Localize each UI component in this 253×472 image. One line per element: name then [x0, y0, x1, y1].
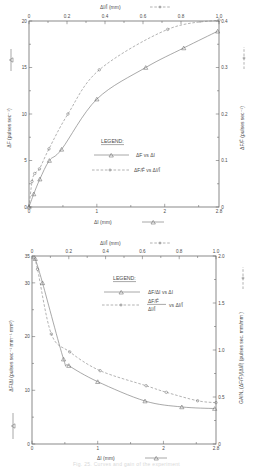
- left-axis-label: ΔF (pulses sec⁻¹): [6, 108, 12, 148]
- data-point-dot: [48, 148, 51, 151]
- data-point-dot: [33, 172, 36, 175]
- axis-tick-label-right: 1.5: [218, 301, 225, 306]
- legend-item-label: ΔF/F̄ vs ΔI/Ī: [134, 167, 161, 173]
- left-axis-title-group: ΔF (pulses sec⁻¹): [6, 108, 12, 148]
- top-chart-legend: LEGEND: ΔF vs ΔI ΔF/F̄ vs ΔI/Ī: [92, 138, 161, 173]
- bottom-chart-ticks: [32, 256, 216, 444]
- dashed-dot-line-icon: [150, 6, 170, 8]
- axis-tick-label-right: 0: [218, 442, 221, 447]
- axis-tick-label-bottom: 2.8: [213, 446, 220, 451]
- axis-tick-label-left: 35: [25, 254, 31, 259]
- left-axis-legend-icon-group: [9, 49, 13, 71]
- axis-tick-label-right: 0.3: [221, 65, 228, 70]
- top-axis-label: ΔI/Ī (mm): [100, 4, 121, 10]
- axis-tick-label-right: 0.5: [218, 395, 225, 400]
- legend-item-gain-vs-dibar: ΔF/F̄ ΔI/Ī vs ΔI/Ī: [102, 298, 184, 312]
- axis-tick-label-top: 0: [31, 249, 34, 254]
- legend-fraction-numerator: ΔF/F̄: [148, 298, 159, 304]
- bottom-axis-label: ΔI (mm): [94, 219, 112, 225]
- top-chart-tick-labels: 00.20.40.60.81.00122.80510152000.10.20.3…: [22, 14, 228, 214]
- axis-tick-label-left: 0: [27, 442, 30, 447]
- legend-item-dfbar-vs-dibar: ΔF/F̄ vs ΔI/Ī: [92, 167, 161, 173]
- solid-triangle-line-icon: [142, 220, 164, 224]
- axis-tick-label-right: 2.0: [218, 254, 225, 259]
- bottom-plot-frame: [32, 256, 216, 444]
- legend-fraction-denominator: ΔI/Ī: [148, 306, 156, 312]
- axis-tick-label-left: 10: [25, 388, 31, 393]
- axis-tick-label-bottom: 2: [163, 209, 166, 214]
- right-axis-legend-icon-group: [242, 267, 244, 289]
- chart-panel-bottom: 00.20.40.60.81.00122.801020303500.51.01.…: [0, 236, 253, 472]
- solid-triangle-line-icon: [145, 456, 167, 460]
- axis-tick-label-bottom: 1: [96, 446, 99, 451]
- dashed-dot-line-icon: [150, 242, 170, 244]
- axis-tick-label-left: 30: [25, 281, 31, 286]
- right-axis-title-group: ΔF/F̄ (pulses sec⁻¹): [239, 106, 245, 150]
- right-axis-label: GAIN, (ΔF/F̄)/(ΔI/Ī) (pulses sec. mm/mm …: [238, 312, 244, 404]
- top-plot-frame: [29, 21, 219, 207]
- axis-tick-label-right: 0: [221, 205, 224, 210]
- axis-tick-label-right: 0.4: [221, 19, 228, 24]
- legend-item-slope-vs-di: ΔF/ΔI vs ΔI: [104, 289, 173, 295]
- axis-tick-label-top: 0.2: [66, 249, 73, 254]
- axis-tick-label-right: 0.2: [221, 112, 228, 117]
- axis-tick-label-left: 20: [25, 334, 31, 339]
- top-axis-title-group: ΔI/Ī (mm): [100, 240, 170, 246]
- top-chart-curves: [29, 20, 219, 207]
- axis-tick-label-left: 5: [24, 158, 27, 163]
- axis-tick-label-left: 15: [22, 65, 28, 70]
- solid-triangle-line-icon: [9, 49, 13, 71]
- legend-item-df-vs-di: ΔF vs ΔI: [94, 152, 155, 158]
- top-chart-svg: 00.20.40.60.81.00122.80510152000.10.20.3…: [0, 0, 253, 236]
- legend-title: LEGEND:: [113, 275, 136, 281]
- top-axis-label: ΔI/Ī (mm): [100, 240, 121, 246]
- axis-tick-label-bottom: 1: [96, 209, 99, 214]
- left-axis-title-group: ΔF/ΔI (pulses sec⁻¹ mm⁻¹ mm²): [8, 320, 14, 392]
- axis-tick-label-right: 1.0: [218, 348, 225, 353]
- top-chart-ticks: [29, 21, 219, 207]
- axis-tick-label-right: 0.1: [221, 158, 228, 163]
- left-axis-legend-icon-group: [11, 413, 15, 439]
- dashed-dot-line-icon: [243, 47, 245, 69]
- legend-item-label: ΔF/ΔI vs ΔI: [148, 289, 173, 295]
- legend-title: LEGEND:: [101, 138, 124, 144]
- right-axis-title-group: GAIN, (ΔF/F̄)/(ΔI/Ī) (pulses sec. mm/mm …: [238, 312, 244, 404]
- chart-panel-top: 00.20.40.60.81.00122.80510152000.10.20.3…: [0, 0, 253, 236]
- axis-tick-label-bottom: 2: [162, 446, 165, 451]
- axis-tick-label-left: 20: [22, 19, 28, 24]
- axis-tick-label-top: 0.8: [178, 14, 185, 19]
- solid-triangle-line-icon: [11, 413, 15, 439]
- data-point-dot: [99, 369, 102, 372]
- axis-tick-label-top: 0.2: [64, 14, 71, 19]
- axis-tick-label-bottom: 0: [28, 209, 31, 214]
- axis-tick-label-bottom: 2.8: [216, 209, 223, 214]
- bottom-chart-svg: 00.20.40.60.81.00122.801020303500.51.01.…: [0, 236, 253, 472]
- right-axis-legend-icon-group: [243, 47, 245, 69]
- top-axis-title-group: ΔI/Ī (mm): [100, 4, 170, 10]
- axis-tick-label-top: 0.6: [139, 249, 146, 254]
- axis-tick-label-left: 10: [22, 112, 28, 117]
- axis-tick-label-bottom: 0: [31, 446, 34, 451]
- series-line-0: [29, 31, 218, 207]
- figure-caption: Fig. 25. Curves and gain of the experime…: [0, 461, 253, 467]
- bottom-axis-title-group: ΔI (mm): [94, 219, 164, 225]
- legend-item-label: ΔF vs ΔI: [136, 152, 155, 158]
- axis-tick-label-top: 0.8: [176, 249, 183, 254]
- series-line-1: [29, 20, 219, 207]
- figure-container: 00.20.40.60.81.00122.80510152000.10.20.3…: [0, 0, 253, 472]
- left-axis-label: ΔF/ΔI (pulses sec⁻¹ mm⁻¹ mm²): [8, 320, 14, 392]
- legend-fraction-suffix: vs ΔI/Ī: [169, 302, 184, 308]
- axis-tick-label-top: 0.4: [102, 14, 109, 19]
- axis-tick-label-top: 0.6: [140, 14, 147, 19]
- data-point-dot: [67, 113, 70, 116]
- dashed-dot-line-icon: [242, 267, 244, 289]
- series-line-0: [35, 259, 214, 409]
- axis-tick-label-top: 0.4: [102, 249, 109, 254]
- axis-tick-label-top: 0: [28, 14, 31, 19]
- top-chart-markers: [27, 19, 220, 209]
- legend-fraction-label: ΔF/F̄ ΔI/Ī vs ΔI/Ī: [147, 298, 184, 312]
- right-axis-label: ΔF/F̄ (pulses sec⁻¹): [239, 106, 245, 150]
- bottom-chart-legend: LEGEND: ΔF/ΔI vs ΔI ΔF/F̄ ΔI/Ī vs ΔI: [102, 275, 184, 312]
